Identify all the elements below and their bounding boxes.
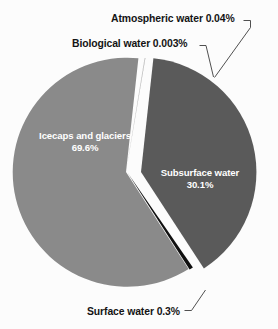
callout-label-atmospheric-water: Atmospheric water 0.04% bbox=[111, 13, 235, 25]
callout-label-surface-water: Surface water 0.3% bbox=[87, 306, 180, 318]
slice-label-subsurface-percent: 30.1% bbox=[148, 179, 252, 191]
slice-label-subsurface-water: Subsurface water 30.1% bbox=[148, 167, 252, 190]
slice-label-subsurface-name: Subsurface water bbox=[161, 167, 239, 178]
pie-chart-figure: Icecaps and glaciers 69.6% Subsurface wa… bbox=[0, 0, 278, 329]
slice-label-icecaps-name: Icecaps and glaciers bbox=[39, 130, 131, 141]
slice-label-icecaps-percent: 69.6% bbox=[25, 142, 145, 154]
callout-label-biological-water: Biological water 0.003% bbox=[72, 38, 188, 50]
slice-label-icecaps-and-glaciers: Icecaps and glaciers 69.6% bbox=[25, 130, 145, 153]
